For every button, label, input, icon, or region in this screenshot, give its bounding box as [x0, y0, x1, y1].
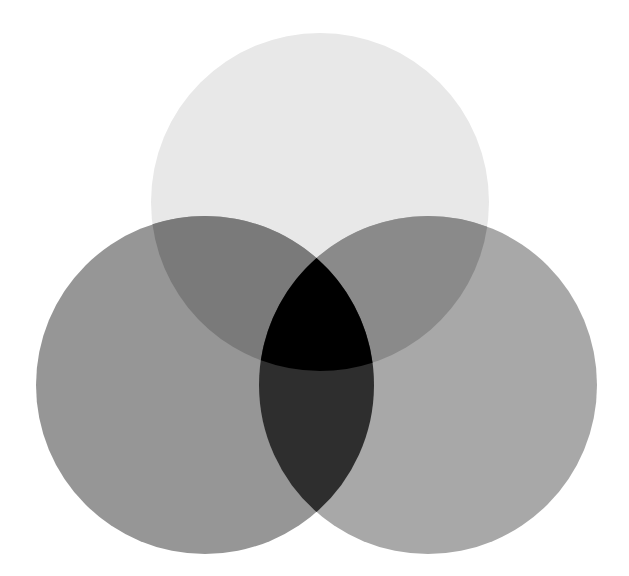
figure-canvas: g pp [0, 0, 629, 576]
venn-diagram [0, 0, 629, 576]
